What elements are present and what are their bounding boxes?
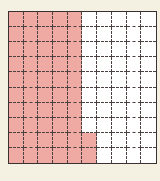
- grid-cell-shaded: [9, 57, 24, 72]
- grid-cell-shaded: [38, 133, 53, 148]
- grid-cell-shaded: [68, 133, 83, 148]
- grid-cell-shaded: [38, 103, 53, 118]
- grid-cell: [97, 72, 112, 87]
- grid-cell: [112, 103, 127, 118]
- grid-cell: [112, 148, 127, 163]
- grid-cell-shaded: [82, 133, 97, 148]
- grid-cell: [127, 42, 142, 57]
- grid-cell: [112, 12, 127, 27]
- grid-cell-shaded: [9, 27, 24, 42]
- grid-cell: [112, 133, 127, 148]
- grid-cell: [127, 103, 142, 118]
- grid-cell: [127, 12, 142, 27]
- grid-cell: [97, 57, 112, 72]
- grid-cell: [82, 72, 97, 87]
- grid-cell-shaded: [68, 103, 83, 118]
- grid-cell-shaded: [68, 88, 83, 103]
- hundred-grid: [8, 11, 157, 164]
- grid-cell: [141, 12, 156, 27]
- grid-cell-shaded: [9, 12, 24, 27]
- grid-cell-shaded: [24, 133, 39, 148]
- grid-cell: [127, 118, 142, 133]
- grid-cell-shaded: [68, 57, 83, 72]
- grid-cell: [127, 148, 142, 163]
- grid-cell: [82, 27, 97, 42]
- grid-cell-shaded: [9, 103, 24, 118]
- grid-cell: [127, 57, 142, 72]
- grid-cell-shaded: [24, 72, 39, 87]
- grid-cell-shaded: [53, 103, 68, 118]
- grid-cell: [97, 103, 112, 118]
- grid-cell: [97, 148, 112, 163]
- grid-cell: [141, 72, 156, 87]
- grid-cell-shaded: [38, 72, 53, 87]
- grid-cell: [141, 133, 156, 148]
- grid-cell: [97, 88, 112, 103]
- grid-cell-shaded: [38, 118, 53, 133]
- grid-cell-shaded: [68, 118, 83, 133]
- grid-cell-shaded: [24, 118, 39, 133]
- grid-cell: [82, 118, 97, 133]
- grid-cell-shaded: [38, 27, 53, 42]
- grid-cell-shaded: [9, 42, 24, 57]
- grid-cell: [112, 118, 127, 133]
- grid-cell: [141, 42, 156, 57]
- grid-cell: [82, 57, 97, 72]
- grid-cell: [141, 57, 156, 72]
- grid-cell-shaded: [9, 148, 24, 163]
- grid-cell: [127, 72, 142, 87]
- grid-cell-shaded: [68, 12, 83, 27]
- grid-cell: [82, 12, 97, 27]
- grid-cell: [141, 27, 156, 42]
- grid-cell-shaded: [38, 88, 53, 103]
- grid-cell: [112, 27, 127, 42]
- grid-cell-shaded: [68, 27, 83, 42]
- grid-cell: [141, 148, 156, 163]
- grid-cell-shaded: [38, 42, 53, 57]
- grid-cell-shaded: [24, 12, 39, 27]
- grid-cell-shaded: [68, 148, 83, 163]
- grid-cell: [141, 103, 156, 118]
- grid-cell: [127, 27, 142, 42]
- grid-cell: [97, 12, 112, 27]
- grid-cell: [97, 27, 112, 42]
- grid-cell-shaded: [24, 42, 39, 57]
- grid-cell: [82, 103, 97, 118]
- grid-cell-shaded: [82, 148, 97, 163]
- grid-cell-shaded: [53, 27, 68, 42]
- grid-cell-shaded: [9, 72, 24, 87]
- grid-cell-shaded: [68, 42, 83, 57]
- grid-cell: [127, 133, 142, 148]
- grid-cell-shaded: [53, 133, 68, 148]
- grid-cell-shaded: [53, 57, 68, 72]
- grid-cell: [127, 88, 142, 103]
- grid-cell-shaded: [9, 118, 24, 133]
- grid-cell-shaded: [24, 57, 39, 72]
- grid-cell-shaded: [53, 88, 68, 103]
- grid-cell-shaded: [38, 12, 53, 27]
- grid-cell-shaded: [38, 148, 53, 163]
- grid-cell-shaded: [9, 133, 24, 148]
- grid-cell: [97, 42, 112, 57]
- grid-cell-shaded: [24, 27, 39, 42]
- grid-cell: [97, 118, 112, 133]
- grid-cell-shaded: [38, 57, 53, 72]
- grid-cell: [112, 72, 127, 87]
- grid-cell-shaded: [53, 148, 68, 163]
- grid-cell-shaded: [53, 118, 68, 133]
- grid-cell: [112, 42, 127, 57]
- grid-cell: [141, 118, 156, 133]
- grid-cell: [112, 88, 127, 103]
- grid-cell-shaded: [53, 72, 68, 87]
- grid-cell-shaded: [9, 88, 24, 103]
- grid-cell: [112, 57, 127, 72]
- grid-cell-shaded: [53, 42, 68, 57]
- grid-cell-shaded: [68, 72, 83, 87]
- grid-cell: [82, 88, 97, 103]
- grid-cell-shaded: [24, 148, 39, 163]
- grid-cell-shaded: [24, 103, 39, 118]
- grid-cell: [82, 42, 97, 57]
- grid-cell: [97, 133, 112, 148]
- grid-cell-shaded: [53, 12, 68, 27]
- grid-cell-shaded: [24, 88, 39, 103]
